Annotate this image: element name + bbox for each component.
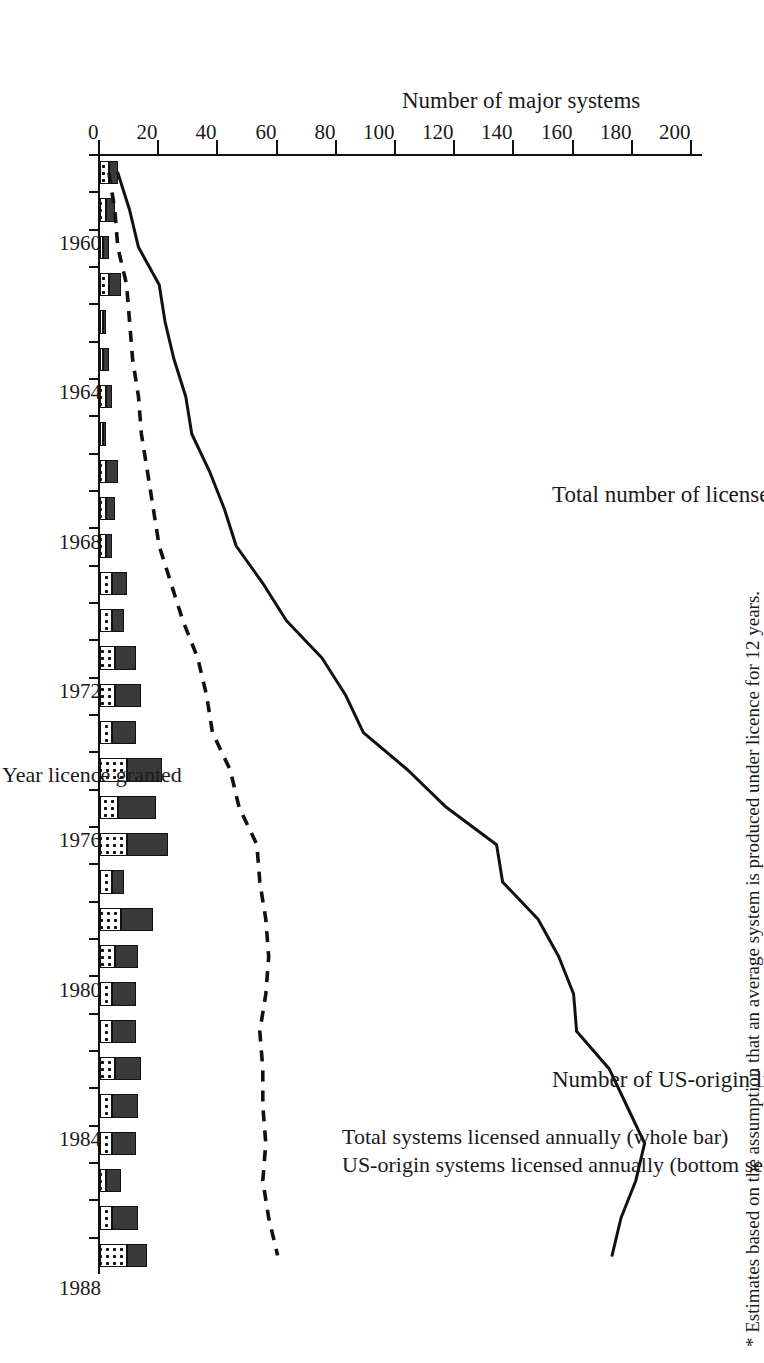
annotation-line-total: Total number of licensed systems in prod… [552,482,764,508]
annotation-bar-total: Total systems licensed annually (whole b… [342,1124,728,1150]
line-us-origin-in-production [109,172,278,1255]
line-series-layer [62,62,702,1302]
category-axis-title: Year licence granted [2,762,182,788]
annotation-line-us: Number of US-origin licensed systems in … [552,1067,764,1093]
annotation-bar-us: US-origin systems licensed annually (bot… [342,1152,764,1178]
value-axis-title: Number of major systems [402,88,640,114]
chart-rotation-stage: 020406080100120140160180200 196019641968… [62,62,702,1302]
figure-footnote: * Estimates based on the assumption that… [742,591,764,1347]
chart-plot-area: 020406080100120140160180200 196019641968… [62,62,702,1302]
